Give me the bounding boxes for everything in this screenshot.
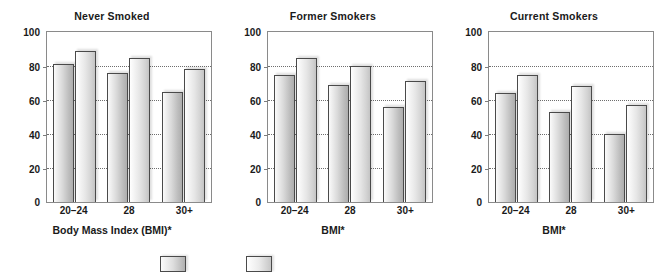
legend-swatch-series-2 — [246, 256, 272, 272]
y-tick-label: 100 — [465, 27, 482, 38]
x-tick-label: 20–24 — [494, 205, 538, 216]
x-axis-title: BMI* — [223, 224, 443, 236]
y-tick-label: 40 — [471, 130, 482, 141]
bar — [274, 75, 295, 203]
y-tick-label: 100 — [244, 27, 261, 38]
y-tick-label: 60 — [250, 96, 261, 107]
plot-area: 20 40 60 80 100 0 — [46, 31, 212, 203]
bar — [604, 134, 625, 202]
legend — [160, 256, 272, 272]
bar-group — [274, 32, 317, 202]
legend-swatch-series-1 — [160, 256, 186, 272]
y-tick-label: 20 — [250, 164, 261, 175]
y-tick-label: 40 — [250, 130, 261, 141]
bar — [383, 107, 404, 202]
bar — [549, 112, 570, 202]
y-tick-label: 0 — [255, 197, 261, 208]
y-tick-label: 40 — [29, 130, 40, 141]
bar — [53, 64, 74, 202]
x-tick-labels: 20–24 28 30+ — [267, 205, 433, 216]
x-tick-label: 30+ — [604, 205, 648, 216]
x-tick-label: 28 — [328, 205, 372, 216]
bar — [129, 58, 150, 203]
bar — [296, 58, 317, 203]
x-tick-label: 20–24 — [52, 205, 96, 216]
bar-group — [549, 32, 592, 202]
y-tick-label: 20 — [29, 164, 40, 175]
bar-group — [604, 32, 647, 202]
x-axis-title: BMI* — [444, 224, 664, 236]
chart-panel-never-smoked: Never Smoked 20 40 60 80 100 0 20–24 28 … — [2, 0, 222, 248]
y-tick-label: 80 — [29, 62, 40, 73]
bar-group — [383, 32, 426, 202]
y-tick-label: 60 — [471, 96, 482, 107]
bar — [328, 85, 349, 202]
x-tick-labels: 20–24 28 30+ — [488, 205, 654, 216]
x-tick-label: 30+ — [383, 205, 427, 216]
y-tick-label: 100 — [23, 27, 40, 38]
y-tick-label: 80 — [250, 62, 261, 73]
bar-group — [107, 32, 150, 202]
bar-group — [328, 32, 371, 202]
bar-group — [495, 32, 538, 202]
x-tick-labels: 20–24 28 30+ — [46, 205, 212, 216]
bar — [405, 81, 426, 202]
plot-area: 20 40 60 80 100 0 — [488, 31, 654, 203]
bar-group — [162, 32, 205, 202]
y-tick-label: 0 — [34, 197, 40, 208]
y-tick-label: 0 — [476, 197, 482, 208]
bar — [571, 86, 592, 202]
bar — [517, 75, 538, 203]
bar — [350, 66, 371, 202]
bar-group — [53, 32, 96, 202]
bar-groups — [489, 32, 653, 202]
y-tick-label: 80 — [471, 62, 482, 73]
bar — [75, 51, 96, 202]
x-tick-label: 28 — [549, 205, 593, 216]
x-tick-label: 30+ — [162, 205, 206, 216]
bar — [184, 69, 205, 202]
chart-panel-former-smokers: Former Smokers 20 40 60 80 100 0 20–24 2… — [223, 0, 443, 248]
bar — [107, 73, 128, 202]
bar — [162, 92, 183, 203]
panel-title: Current Smokers — [444, 10, 664, 22]
y-tick-label: 20 — [471, 164, 482, 175]
plot-area: 20 40 60 80 100 0 — [267, 31, 433, 203]
y-tick-label: 60 — [29, 96, 40, 107]
x-tick-label: 20–24 — [273, 205, 317, 216]
panel-title: Former Smokers — [223, 10, 443, 22]
bar — [626, 105, 647, 202]
panel-title: Never Smoked — [2, 10, 222, 22]
x-axis-title: Body Mass Index (BMI)* — [2, 224, 222, 236]
bar-groups — [47, 32, 211, 202]
chart-panel-current-smokers: Current Smokers 20 40 60 80 100 0 20–24 … — [444, 0, 664, 248]
x-tick-label: 28 — [107, 205, 151, 216]
bar-groups — [268, 32, 432, 202]
bar — [495, 93, 516, 202]
